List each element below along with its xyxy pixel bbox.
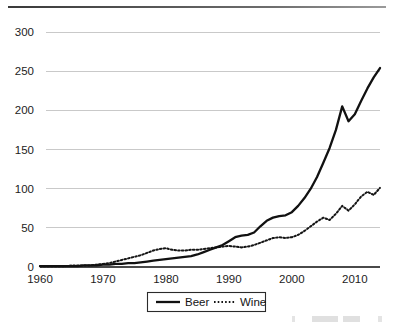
x-tick-1960: 1960 xyxy=(27,273,53,285)
series-line-beer xyxy=(40,68,380,266)
y-tick-0: 0 xyxy=(28,261,34,273)
y-tick-50: 50 xyxy=(21,222,34,234)
x-tick-1990: 1990 xyxy=(216,273,242,285)
y-tick-200: 200 xyxy=(15,104,34,116)
x-axis-tick-labels: 196019701980199020002010 xyxy=(27,273,367,285)
y-tick-250: 250 xyxy=(15,65,34,77)
y-tick-150: 150 xyxy=(15,144,34,156)
legend-label-beer: Beer xyxy=(185,296,209,308)
gridlines xyxy=(46,32,380,228)
chart-svg: 050100150200250300 196019701980199020002… xyxy=(0,0,394,324)
y-tick-100: 100 xyxy=(15,183,34,195)
series-line-wine xyxy=(40,188,380,266)
y-tick-300: 300 xyxy=(15,26,34,38)
page-footer-artifact xyxy=(286,316,390,322)
y-axis-tick-labels: 050100150200250300 xyxy=(15,26,34,273)
legend-label-wine: Wine xyxy=(240,296,266,308)
x-tick-2010: 2010 xyxy=(342,273,368,285)
chart-legend: Beer Wine xyxy=(148,293,267,312)
chart-page: 050100150200250300 196019701980199020002… xyxy=(0,0,394,324)
x-tick-2000: 2000 xyxy=(279,273,305,285)
x-tick-1980: 1980 xyxy=(153,273,179,285)
line-chart: 050100150200250300 196019701980199020002… xyxy=(0,0,394,324)
x-tick-1970: 1970 xyxy=(90,273,116,285)
